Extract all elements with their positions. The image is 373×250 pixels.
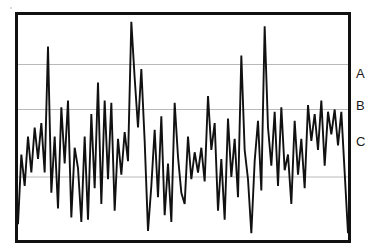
plot-frame bbox=[15, 12, 351, 243]
gridline-label-b: B bbox=[356, 99, 365, 112]
gridline-label-a: A bbox=[356, 67, 365, 80]
decorative-speck bbox=[10, 7, 12, 9]
gridline-label-c: C bbox=[356, 135, 366, 148]
figure-canvas: A B C bbox=[0, 0, 373, 250]
